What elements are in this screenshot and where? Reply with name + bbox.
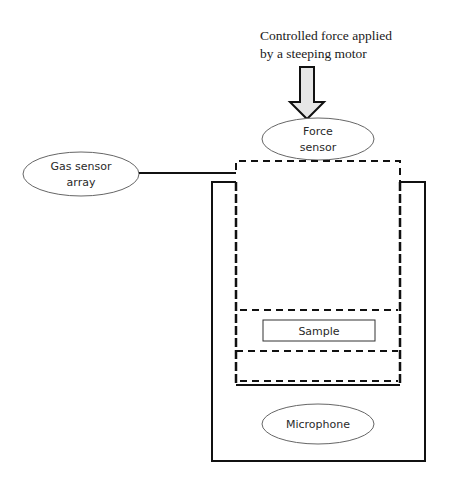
force-sensor-label-line2: sensor — [300, 141, 337, 154]
force-sensor-label-line1: Force — [303, 125, 333, 138]
sample-label: Sample — [298, 325, 339, 338]
gas-sensor-label-line1: Gas sensor — [51, 160, 112, 173]
diagram-canvas: Controlled force applied by a steeping m… — [0, 0, 449, 488]
force-arrow-icon — [290, 67, 324, 119]
gas-sensor-ellipse — [23, 152, 139, 196]
force-caption-line2: by a steeping motor — [260, 46, 367, 61]
force-caption-line1: Controlled force applied — [260, 28, 392, 43]
gas-sensor-label-line2: array — [67, 176, 96, 189]
apparatus-diagram: Controlled force applied by a steeping m… — [0, 0, 449, 488]
piston-chamber-dashed — [236, 161, 400, 182]
microphone-label: Microphone — [286, 418, 350, 431]
